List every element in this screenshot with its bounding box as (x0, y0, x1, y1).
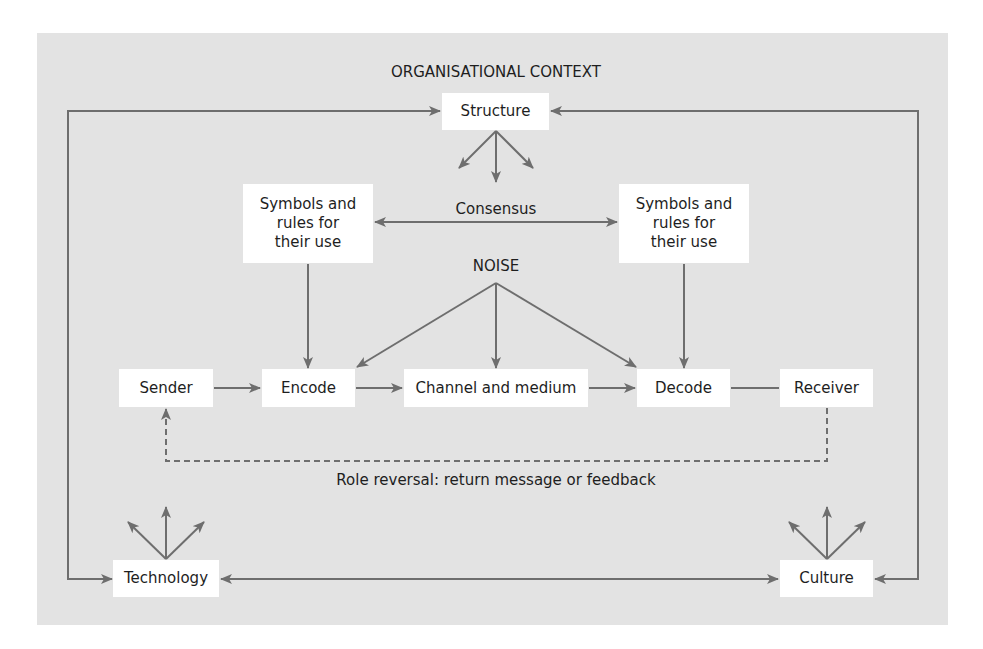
node-sender: Sender (119, 369, 213, 407)
node-encode: Encode (262, 369, 355, 407)
node-decode: Decode (637, 369, 730, 407)
culture-fan-left (789, 522, 827, 559)
culture-fan-right (827, 522, 865, 559)
structure-fan-right (496, 131, 533, 168)
node-structure: Structure (442, 93, 549, 130)
noise-to-encode (357, 283, 496, 367)
node-technology: Technology (113, 560, 219, 597)
noise-label: NOISE (456, 257, 536, 275)
feedback-dashed-line (166, 408, 827, 461)
node-symbols-left: Symbols and rules for their use (243, 184, 373, 263)
loop-right-line (551, 111, 918, 579)
diagram-title: ORGANISATIONAL CONTEXT (346, 63, 646, 81)
consensus-label: Consensus (436, 200, 556, 218)
node-culture: Culture (780, 560, 873, 597)
node-receiver: Receiver (780, 369, 873, 407)
node-channel: Channel and medium (404, 369, 588, 407)
node-symbols-right: Symbols and rules for their use (619, 184, 749, 263)
loop-left-line (68, 111, 440, 579)
feedback-label: Role reversal: return message or feedbac… (316, 471, 676, 489)
structure-fan-left (459, 131, 496, 168)
technology-fan-right (166, 522, 204, 559)
noise-to-decode (496, 283, 636, 367)
technology-fan-left (128, 522, 166, 559)
